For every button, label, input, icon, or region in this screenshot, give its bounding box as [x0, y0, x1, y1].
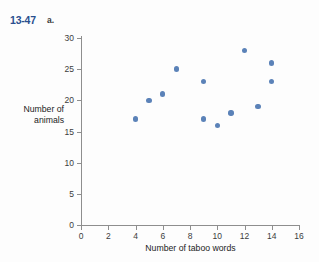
- x-tick-label: 8: [180, 231, 200, 241]
- x-tick: [136, 226, 137, 230]
- y-axis-line: [81, 36, 82, 226]
- x-tick: [299, 226, 300, 230]
- data-point: [269, 79, 274, 84]
- scatter-plot: 051015202530 0246810121416 Number ofanim…: [0, 0, 319, 262]
- y-tick-label: 10: [52, 158, 74, 168]
- y-axis-title-line: Number of: [2, 104, 64, 115]
- x-tick-label: 16: [289, 231, 309, 241]
- x-axis-title: Number of taboo words: [81, 243, 300, 253]
- data-point: [201, 79, 206, 84]
- x-tick-label: 10: [207, 231, 227, 241]
- y-tick-label: 5: [52, 189, 74, 199]
- data-point: [160, 91, 165, 96]
- data-point: [269, 60, 274, 65]
- x-tick-label: 0: [71, 231, 91, 241]
- y-tick: [77, 194, 81, 195]
- y-tick: [77, 163, 81, 164]
- data-point: [242, 48, 247, 53]
- y-tick: [77, 132, 81, 133]
- y-tick: [77, 100, 81, 101]
- y-axis-title: Number ofanimals: [2, 104, 64, 125]
- data-point: [201, 116, 206, 121]
- x-tick-label: 12: [235, 231, 255, 241]
- y-tick-label: 30: [52, 33, 74, 43]
- x-tick: [272, 226, 273, 230]
- x-tick: [245, 226, 246, 230]
- x-tick: [190, 226, 191, 230]
- y-tick-label: 15: [52, 127, 74, 137]
- data-point: [228, 110, 233, 115]
- y-tick-label: 25: [52, 64, 74, 74]
- data-point: [215, 123, 220, 128]
- x-tick: [217, 226, 218, 230]
- y-tick: [77, 69, 81, 70]
- figure-page: 13-47 a. 051015202530 0246810121416 Numb…: [0, 0, 319, 262]
- data-point: [255, 104, 260, 109]
- x-tick: [163, 226, 164, 230]
- x-tick-label: 14: [262, 231, 282, 241]
- y-tick-label: 0: [52, 220, 74, 230]
- x-tick: [81, 226, 82, 230]
- x-tick-label: 4: [126, 231, 146, 241]
- y-axis-title-line: animals: [2, 115, 64, 126]
- y-tick: [77, 38, 81, 39]
- data-point: [174, 66, 179, 71]
- data-point: [146, 98, 151, 103]
- x-tick-label: 2: [98, 231, 118, 241]
- x-tick: [108, 226, 109, 230]
- x-tick-label: 6: [153, 231, 173, 241]
- data-point: [133, 116, 138, 121]
